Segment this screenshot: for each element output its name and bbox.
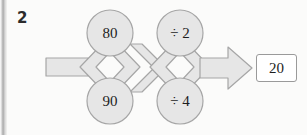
output-arrow-icon [200,47,252,89]
stage-two-bottom-label: ÷ 4 [170,93,190,109]
answer-box[interactable]: 20 [256,54,297,82]
answer-value: 20 [269,60,284,77]
stage-two-option-bottom[interactable]: ÷ 4 [157,78,203,124]
stage-one-option-bottom[interactable]: 90 [87,78,133,124]
worksheet-page: 2 80 90 ÷ 2 [0,0,307,135]
stage-one-option-top[interactable]: 80 [87,10,133,56]
stage-two-option-top[interactable]: ÷ 2 [157,10,203,56]
stage-one-bottom-label: 90 [103,93,118,109]
stage-one-top-label: 80 [103,25,118,41]
machine-pipework [46,42,252,92]
stage-two-top-label: ÷ 2 [170,25,189,41]
